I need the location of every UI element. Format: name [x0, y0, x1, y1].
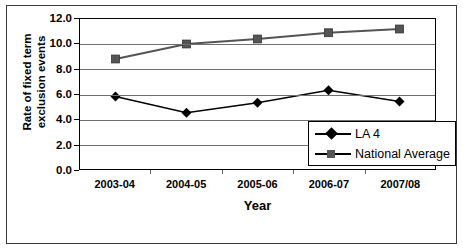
x-tick-label: 2006-07 — [309, 178, 349, 190]
y-tick-mark — [74, 69, 79, 70]
square-marker-icon — [325, 29, 333, 37]
y-tick-mark — [74, 94, 79, 95]
x-tick-mark — [293, 170, 294, 174]
y-tick-label: 10.0 — [30, 37, 72, 49]
square-marker-icon — [396, 25, 404, 33]
square-marker-icon — [112, 55, 120, 63]
legend-item-national-average: National Average — [313, 144, 451, 164]
y-tick-mark — [74, 170, 79, 171]
x-axis-title: Year — [79, 198, 436, 213]
x-tick-mark — [222, 170, 223, 174]
gridline — [80, 44, 435, 45]
chart-legend: LA 4 National Average — [308, 121, 456, 166]
y-tick-label: 8.0 — [30, 63, 72, 75]
y-tick-mark — [74, 18, 79, 19]
x-tick-label: 2004-05 — [166, 178, 206, 190]
gridline — [80, 95, 435, 96]
y-tick-label: 4.0 — [30, 113, 72, 125]
x-tick-mark — [150, 170, 151, 174]
diamond-marker-icon — [395, 97, 405, 107]
x-tick-label: 2003-04 — [95, 178, 135, 190]
square-marker-icon — [254, 35, 262, 43]
diamond-marker-icon — [182, 108, 192, 118]
x-tick-label: 2005-06 — [237, 178, 277, 190]
x-tick-mark — [365, 170, 366, 174]
y-tick-label: 0.0 — [30, 164, 72, 176]
diamond-marker-icon — [111, 92, 121, 102]
diamond-marker-icon — [313, 127, 353, 141]
legend-label-national-average: National Average — [353, 147, 450, 161]
y-tick-label: 12.0 — [30, 12, 72, 24]
y-tick-label: 2.0 — [30, 139, 72, 151]
legend-label-la-4: LA 4 — [353, 127, 380, 141]
gridline — [80, 69, 435, 70]
y-tick-mark — [74, 43, 79, 44]
square-marker-icon — [313, 147, 353, 161]
y-tick-label: 6.0 — [30, 88, 72, 100]
x-tick-label: 2007/08 — [380, 178, 420, 190]
chart-screenshot: Rate of fixed term exclusion events 0.02… — [0, 0, 463, 251]
diamond-marker-icon — [253, 98, 263, 108]
legend-item-la-4: LA 4 — [313, 124, 451, 144]
y-tick-mark — [74, 119, 79, 120]
y-tick-mark — [74, 145, 79, 146]
